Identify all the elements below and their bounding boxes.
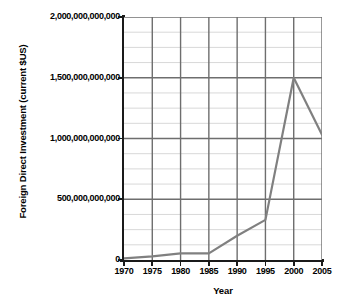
y-tick-mark — [118, 259, 123, 261]
y-tick-label: 500,000,000,000 — [20, 194, 120, 203]
x-axis-title: Year — [124, 285, 322, 296]
y-tick-label: 2,000,000,000,000 — [20, 12, 120, 21]
y-axis-tick-labels: 0500,000,000,0001,000,000,000,0001,500,0… — [14, 0, 120, 302]
y-tick-mark — [118, 16, 123, 18]
x-tick-label: 2005 — [302, 267, 341, 276]
y-tick-mark — [118, 77, 123, 79]
y-tick-mark — [118, 138, 123, 140]
y-tick-label: 1,500,000,000,000 — [20, 73, 120, 82]
data-series-line — [124, 78, 322, 259]
plot-svg — [124, 17, 322, 260]
plot-area — [124, 17, 322, 260]
y-tick-label: 0 — [20, 255, 120, 264]
y-tick-mark — [118, 198, 123, 200]
fdi-line-chart: Foreign Direct Investment (current $US) … — [0, 0, 341, 302]
y-tick-label: 1,000,000,000,000 — [20, 134, 120, 143]
